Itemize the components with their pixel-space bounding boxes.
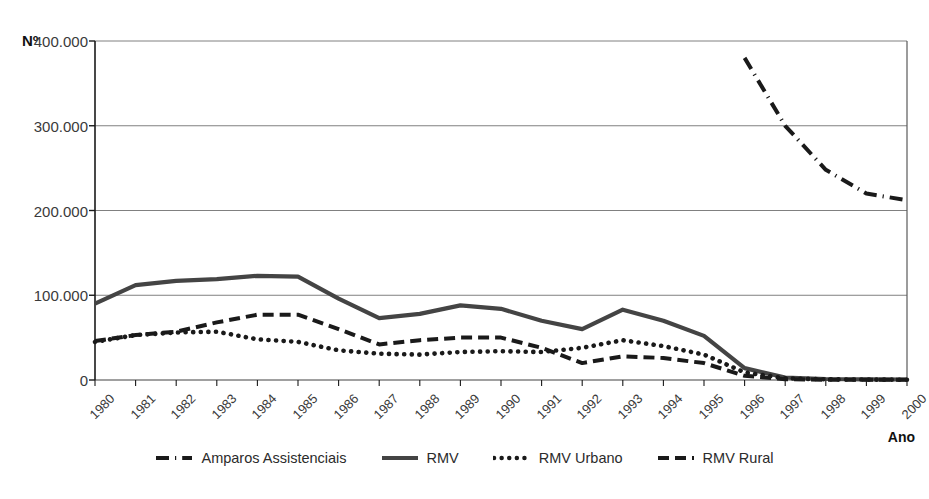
legend-label: RMV Urbano (539, 450, 623, 466)
series-line (95, 276, 907, 380)
x-axis-title: Ano (888, 429, 915, 445)
plot-area (0, 0, 929, 499)
y-tick-label: 100.000 (4, 287, 88, 304)
y-tick-label: 0 (4, 372, 88, 389)
y-tick-label: 300.000 (4, 117, 88, 134)
chart-legend: Amparos AssistenciaisRMVRMV UrbanoRMV Ru… (0, 450, 929, 466)
y-tick-label: 200.000 (4, 202, 88, 219)
legend-item[interactable]: RMV (381, 450, 459, 466)
legend-label: Amparos Assistenciais (201, 450, 346, 466)
legend-swatch-icon (155, 452, 193, 464)
legend-label: RMV (427, 450, 459, 466)
series-line (745, 58, 907, 200)
y-axis-labels: Nº 0100.000200.000300.000400.000 (0, 0, 88, 499)
legend-item[interactable]: RMV Urbano (493, 450, 623, 466)
chart-container: Nº 0100.000200.000300.000400.000 1980198… (0, 0, 929, 499)
legend-item[interactable]: Amparos Assistenciais (155, 450, 346, 466)
series-line (95, 315, 907, 380)
legend-swatch-icon (493, 452, 531, 464)
legend-swatch-icon (657, 452, 695, 464)
legend-label: RMV Rural (703, 450, 774, 466)
legend-swatch-icon (381, 452, 419, 464)
legend-item[interactable]: RMV Rural (657, 450, 774, 466)
y-tick-label: 400.000 (4, 33, 88, 50)
